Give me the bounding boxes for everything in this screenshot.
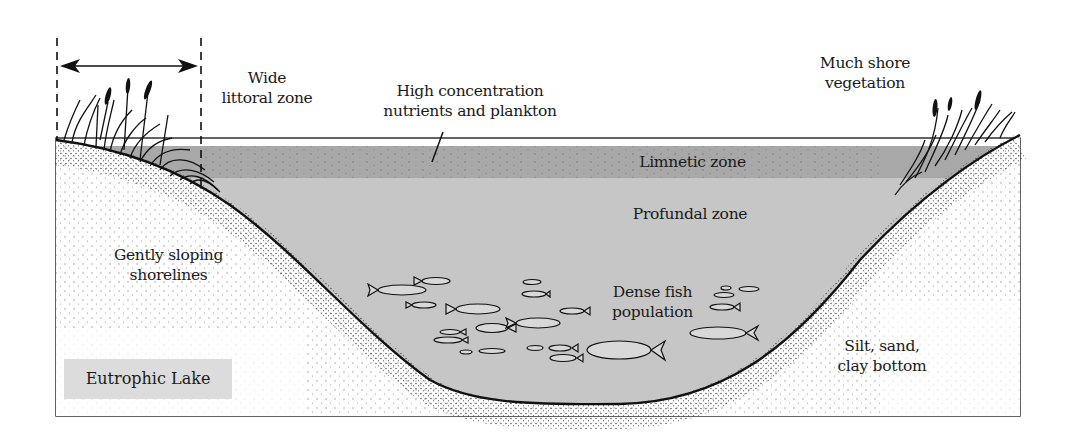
eutrophic-lake-diagram: Wide littoral zone High concentration nu… bbox=[0, 0, 1070, 443]
diagram-title-box: Eutrophic Lake bbox=[64, 359, 232, 399]
label-littoral-zone: Wide littoral zone bbox=[212, 68, 322, 108]
label-gently-sloping-shorelines: Gently sloping shorelines bbox=[96, 245, 241, 285]
diagram-title: Eutrophic Lake bbox=[64, 359, 232, 399]
label-dense-fish-population: Dense fish population bbox=[605, 282, 700, 322]
label-silt-sand-clay-bottom: Silt, sand, clay bottom bbox=[832, 336, 932, 376]
label-shore-vegetation: Much shore vegetation bbox=[810, 53, 920, 93]
label-nutrients-plankton: High concentration nutrients and plankto… bbox=[375, 81, 565, 121]
label-limnetic-zone: Limnetic zone bbox=[630, 152, 755, 172]
label-profundal-zone: Profundal zone bbox=[620, 204, 760, 224]
